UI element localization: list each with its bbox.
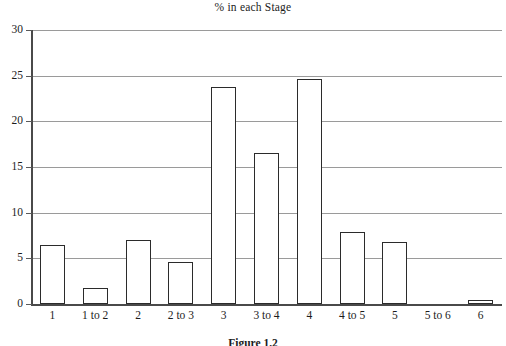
x-tick-label-5-to-6: 5 to 6	[416, 310, 459, 322]
figure-caption: Figure 1.2	[0, 337, 506, 346]
plot-area: 051015202530 11 to 222 to 333 to 444 to …	[0, 0, 506, 346]
y-tick-label-25: 25	[0, 70, 23, 82]
y-tick-label-30: 30	[0, 24, 23, 36]
bar-4	[297, 79, 322, 304]
x-tick-label-5: 5	[374, 310, 417, 322]
y-tick-30	[26, 30, 32, 31]
x-tick-label-1: 1	[31, 310, 74, 322]
bar-6	[468, 300, 493, 304]
y-tick-label-15: 15	[0, 161, 23, 173]
y-tick-0	[26, 304, 32, 305]
bar-2	[126, 240, 151, 304]
x-tick-label-4: 4	[288, 310, 331, 322]
y-tick-5	[26, 258, 32, 259]
gridline-20	[31, 121, 502, 122]
x-tick-label-2-to-3: 2 to 3	[159, 310, 202, 322]
y-tick-label-0: 0	[0, 298, 23, 310]
bar-4-to-5	[340, 232, 365, 304]
x-tick-label-3-to-4: 3 to 4	[245, 310, 288, 322]
y-tick-label-10: 10	[0, 207, 23, 219]
bar-2-to-3	[168, 262, 193, 304]
y-tick-label-5: 5	[0, 252, 23, 264]
x-tick-label-6: 6	[459, 310, 502, 322]
bar-3-to-4	[254, 153, 279, 304]
gridline-30	[31, 30, 502, 31]
y-tick-label-20: 20	[0, 115, 23, 127]
bar-5	[382, 242, 407, 304]
x-tick-label-1-to-2: 1 to 2	[74, 310, 117, 322]
y-tick-15	[26, 167, 32, 168]
y-tick-10	[26, 213, 32, 214]
bar-1	[40, 245, 65, 304]
gridline-25	[31, 76, 502, 77]
y-tick-25	[26, 76, 32, 77]
bar-1-to-2	[83, 288, 108, 304]
figure-container: % in each Stage 051015202530 11 to 222 t…	[0, 0, 506, 346]
x-tick-label-4-to-5: 4 to 5	[331, 310, 374, 322]
x-tick-label-2: 2	[117, 310, 160, 322]
x-axis-baseline	[31, 304, 502, 306]
y-tick-20	[26, 121, 32, 122]
x-tick-label-3: 3	[202, 310, 245, 322]
bar-3	[211, 87, 236, 304]
